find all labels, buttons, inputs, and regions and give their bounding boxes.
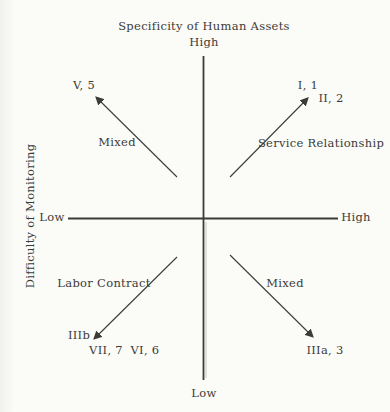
arrow-bottom-left [95,257,177,338]
vertical-axis-high-label: High [189,37,219,49]
point-label-i1: I, 1 [298,80,318,92]
quadrant-name-top-left: Mixed [98,137,136,149]
arrow-bottom-right [230,255,312,336]
point-label-ii2: II, 2 [318,93,343,105]
vertical-axis-title: Specificity of Human Assets [118,21,290,33]
quadrant-name-top-right: Service Relationship [258,138,384,150]
point-label-vii7: VII, 7 [89,345,123,357]
quadrant-name-bottom-left: Labor Contract [57,278,150,290]
quadrant-name-bottom-right: Mixed [266,278,304,290]
quadrant-diagram-figure: Specificity of Human Assets High Low Dif… [0,0,390,412]
horizontal-axis-low-label: Low [39,212,64,224]
point-label-iiib: IIIb [68,330,90,342]
vertical-axis-low-label: Low [191,388,216,400]
horizontal-axis-high-label: High [341,212,371,224]
horizontal-axis-title: Difficulty of Monitoring [25,144,37,289]
point-label-iiia3: IIIa, 3 [306,345,343,357]
point-label-v5: V, 5 [73,80,95,92]
point-label-vi6: VI, 6 [131,345,160,357]
